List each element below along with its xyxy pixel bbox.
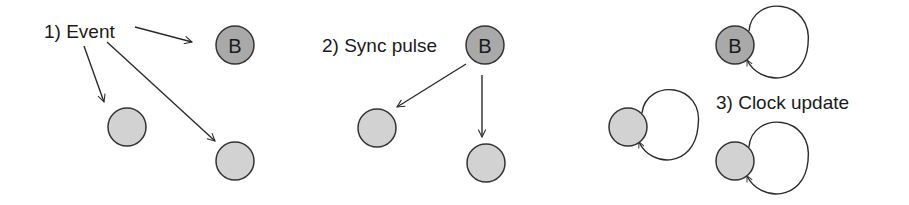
beacon-node: B [716, 26, 754, 64]
beacon-letter: B [228, 35, 241, 57]
sensor-node [216, 142, 254, 180]
clock-sync-diagram: 1) Event B 2) Sync pulse B 3) Clock upda… [0, 0, 909, 205]
edge-event-to-node1 [84, 46, 104, 102]
beacon-letter: B [478, 35, 491, 57]
beacon-node: B [216, 26, 254, 64]
sensor-node [609, 108, 647, 146]
beacon-node: B [466, 26, 504, 64]
panel-sync-pulse: 2) Sync pulse B [322, 26, 505, 182]
sensor-node [467, 144, 505, 182]
panel-label-sync-pulse: 2) Sync pulse [322, 35, 437, 56]
edge-event-to-beacon [135, 27, 192, 42]
panel-event: 1) Event B [44, 21, 254, 180]
self-loop-beacon [747, 6, 808, 78]
sensor-node [358, 109, 396, 147]
panel-clock-update: 3) Clock update B [609, 6, 849, 194]
sensor-node [108, 108, 146, 146]
panel-label-event: 1) Event [44, 21, 115, 42]
panel-label-clock-update: 3) Clock update [716, 92, 849, 113]
self-loop-node2 [747, 122, 808, 194]
self-loop-node1 [639, 90, 699, 160]
beacon-letter: B [728, 35, 741, 57]
sensor-node [716, 142, 754, 180]
edge-beacon-to-node1 [397, 64, 466, 107]
